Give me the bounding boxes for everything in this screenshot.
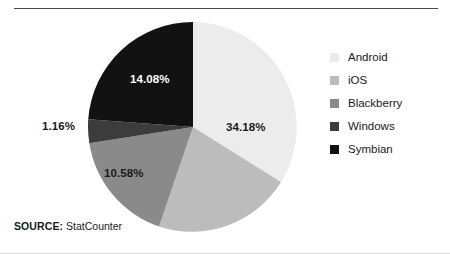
legend-swatch-icon <box>330 53 339 62</box>
legend-item-label: iOS <box>348 75 367 87</box>
top-divider-rule <box>14 8 438 9</box>
legend-swatch-icon <box>330 122 339 131</box>
source-note: SOURCE: StatCounter <box>14 220 122 232</box>
source-label: SOURCE: <box>14 220 63 232</box>
pie-label-android: 34.18% <box>226 121 266 133</box>
pie-chart <box>88 22 298 232</box>
pie-label-blackberry: 1.16% <box>42 120 75 132</box>
legend-item-label: Blackberry <box>348 98 402 110</box>
source-value: StatCounter <box>66 220 122 232</box>
chart-legend: Android iOS Blackberry Windows Symbian <box>330 46 442 161</box>
chart-figure: 34.18% 10.58% 1.16% 14.08% Android iOS B… <box>0 0 450 254</box>
legend-item-symbian[interactable]: Symbian <box>330 138 442 161</box>
pie-chart-svg <box>88 22 298 232</box>
legend-swatch-icon <box>330 76 339 85</box>
pie-label-ios: 10.58% <box>104 167 144 179</box>
legend-item-ios[interactable]: iOS <box>330 69 442 92</box>
legend-item-label: Windows <box>348 121 395 133</box>
legend-item-android[interactable]: Android <box>330 46 442 69</box>
legend-swatch-icon <box>330 99 339 108</box>
legend-item-label: Android <box>348 52 388 64</box>
legend-swatch-icon <box>330 145 339 154</box>
legend-item-windows[interactable]: Windows <box>330 115 442 138</box>
legend-item-label: Symbian <box>348 144 393 156</box>
pie-label-symbian: 14.08% <box>130 73 170 85</box>
legend-item-blackberry[interactable]: Blackberry <box>330 92 442 115</box>
